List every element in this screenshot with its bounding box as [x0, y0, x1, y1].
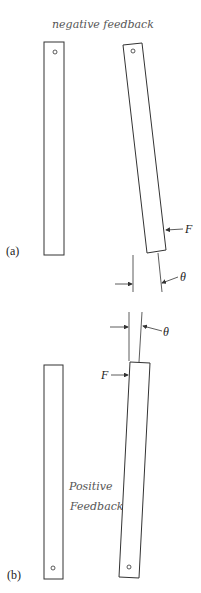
tilted-bar-a — [123, 43, 166, 253]
force-arrow-a — [166, 229, 183, 230]
deflection-line-b — [139, 312, 142, 362]
panel-label-b: (b) — [7, 568, 21, 582]
angle-arrow-right-a — [162, 277, 178, 283]
deflection-line-a — [158, 253, 162, 292]
positive-feedback-note-line1: Positive — [68, 480, 113, 493]
angle-label-b: θ — [163, 325, 169, 339]
pivot-hole-b-right — [127, 565, 131, 569]
positive-feedback-note-line2: Feedback — [69, 500, 124, 513]
force-label-a: F — [184, 222, 193, 236]
feedback-diagram: negative feedback F θ (a) θ F Positi — [0, 0, 201, 593]
panel-label-a: (a) — [6, 244, 19, 258]
negative-feedback-note: negative feedback — [52, 18, 154, 31]
vertical-bar-a — [44, 42, 64, 255]
tilted-bar-b — [119, 362, 150, 578]
pivot-hole-a-right — [131, 49, 135, 53]
angle-arrow-right-b — [143, 326, 162, 331]
vertical-bar-b — [44, 365, 63, 579]
panel-a: F θ (a) — [6, 42, 193, 292]
angle-label-a: θ — [180, 270, 186, 284]
pivot-hole-b-left — [51, 566, 55, 570]
pivot-hole-a-left — [53, 50, 57, 54]
panel-b: θ F Positive Feedback (b) — [7, 312, 169, 582]
force-label-b: F — [100, 368, 109, 382]
